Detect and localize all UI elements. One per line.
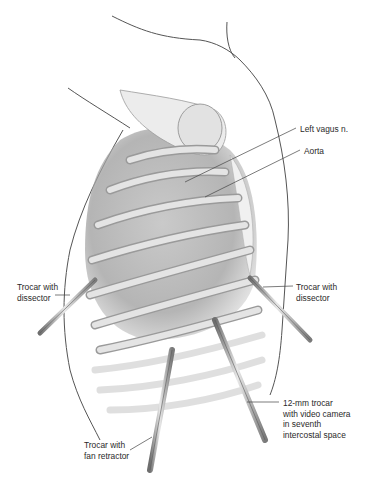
label-trocar-dissector-left: Trocar with dissector	[17, 282, 58, 303]
label-trocar-fan-retractor: Trocar with fan retractor	[84, 440, 129, 461]
label-left-vagus-nerve: Left vagus n.	[300, 124, 348, 135]
label-trocar-dissector-right: Trocar with dissector	[296, 282, 337, 303]
label-trocar-video-camera: 12-mm trocar with video camera in sevent…	[283, 398, 351, 440]
label-aorta: Aorta	[304, 146, 324, 157]
